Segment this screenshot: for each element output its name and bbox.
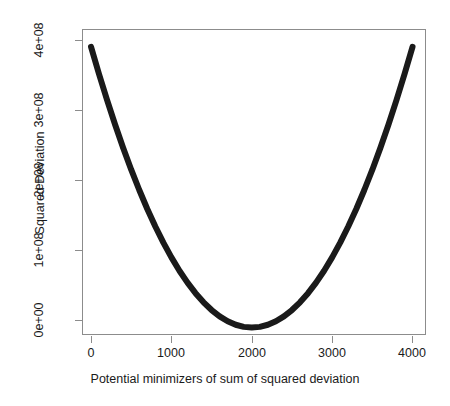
x-tick-1 <box>171 336 172 343</box>
x-tick-label-1: 1000 <box>131 345 211 361</box>
y-tick-0 <box>75 320 82 321</box>
y-tick-3 <box>75 110 82 111</box>
x-tick-4 <box>412 336 413 343</box>
y-tick-4 <box>75 40 82 41</box>
x-tick-label-0: 0 <box>51 345 131 361</box>
chart-figure: 0e+00 1e+08 2e+08 3e+08 4e+08 0 1000 200… <box>0 0 450 406</box>
x-tick-0 <box>91 336 92 343</box>
x-tick-2 <box>252 336 253 343</box>
x-tick-label-4: 4000 <box>372 345 450 361</box>
y-tick-1 <box>75 250 82 251</box>
x-tick-3 <box>332 336 333 343</box>
x-tick-label-3: 3000 <box>292 345 372 361</box>
y-tick-label-4-wrap: 4e+08 <box>8 33 70 47</box>
y-axis-title: Squared Deviation <box>32 68 48 298</box>
x-tick-label-2: 2000 <box>212 345 292 361</box>
y-axis-title-wrap: Squared Deviation <box>0 175 155 191</box>
x-axis-title: Potential minimizers of sum of squared d… <box>0 372 450 386</box>
y-tick-label-0-wrap: 0e+00 <box>8 313 70 327</box>
